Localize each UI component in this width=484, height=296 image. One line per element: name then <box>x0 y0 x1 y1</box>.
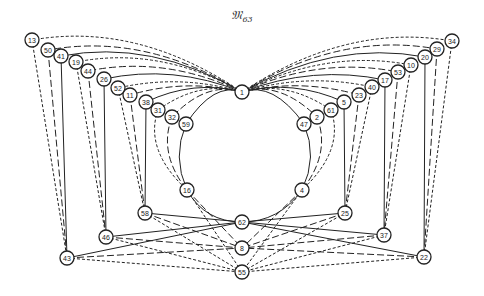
node-13: 13 <box>25 33 39 47</box>
edge-38-58 <box>145 102 146 213</box>
node-label: 38 <box>142 99 150 106</box>
node-8: 8 <box>235 241 249 255</box>
node-label: 52 <box>114 85 122 92</box>
edge-43-55 <box>67 258 242 272</box>
node-50: 50 <box>41 43 55 57</box>
node-label: 25 <box>341 210 349 217</box>
node-label: 37 <box>380 232 388 239</box>
edge-29-22 <box>424 49 437 257</box>
node-label: 10 <box>407 62 415 69</box>
node-34: 34 <box>445 34 459 48</box>
edge-22-55 <box>242 257 424 272</box>
node-59: 59 <box>179 117 193 131</box>
node-label: 62 <box>238 219 246 226</box>
node-44: 44 <box>81 64 95 78</box>
node-label: 44 <box>84 68 92 75</box>
node-label: 2 <box>315 114 319 121</box>
node-58: 58 <box>138 206 152 220</box>
edge-23-25 <box>345 95 359 213</box>
node-label: 40 <box>368 84 376 91</box>
node-label: 17 <box>381 77 389 84</box>
node-label: 32 <box>168 114 176 121</box>
node-25: 25 <box>338 206 352 220</box>
node-29: 29 <box>430 42 444 56</box>
edge-1-59 <box>186 90 242 124</box>
node-41: 41 <box>54 49 68 63</box>
node-label: 19 <box>72 59 80 66</box>
node-label: 46 <box>102 234 110 241</box>
edge-46-62 <box>106 222 242 237</box>
node-10: 10 <box>404 58 418 72</box>
edge-1-32 <box>172 89 242 117</box>
node-label: 41 <box>57 53 65 60</box>
edge-19-46 <box>76 62 106 237</box>
edge-1-31 <box>158 88 242 110</box>
edge-22-8 <box>242 248 424 257</box>
node-label: 55 <box>238 269 246 276</box>
node-label: 29 <box>433 46 441 53</box>
edge-58-62 <box>145 213 242 222</box>
node-23: 23 <box>352 88 366 102</box>
edge-10-37 <box>384 65 411 235</box>
node-label: 22 <box>420 254 428 261</box>
node-label: 34 <box>448 38 456 45</box>
node-38: 38 <box>139 95 153 109</box>
node-11: 11 <box>123 88 137 102</box>
edge-58-55 <box>145 213 242 272</box>
node-label: 20 <box>421 54 429 61</box>
node-label: 11 <box>126 92 133 99</box>
node-5: 5 <box>337 95 351 109</box>
graph-diagram: 1350411944265211383132591342920105317402… <box>0 0 484 296</box>
node-1: 1 <box>235 85 249 99</box>
edge-53-37 <box>384 72 398 235</box>
edge-1-47 <box>242 90 304 124</box>
node-61: 61 <box>324 103 338 117</box>
node-40: 40 <box>365 80 379 94</box>
node-43: 43 <box>60 251 74 265</box>
node-label: 43 <box>63 255 71 262</box>
node-19: 19 <box>69 55 83 69</box>
nodes-layer: 1350411944265211383132591342920105317402… <box>25 33 459 279</box>
node-label: 5 <box>342 99 346 106</box>
edge-26-46 <box>104 79 106 237</box>
edge-37-8 <box>242 235 384 248</box>
node-label: 50 <box>44 47 52 54</box>
node-53: 53 <box>391 65 405 79</box>
node-47: 47 <box>297 117 311 131</box>
node-26: 26 <box>97 72 111 86</box>
edge-25-62 <box>242 213 345 222</box>
node-2: 2 <box>310 110 324 124</box>
node-16: 16 <box>180 183 194 197</box>
edge-44-46 <box>88 71 106 237</box>
node-62: 62 <box>235 215 249 229</box>
node-label: 59 <box>182 121 190 128</box>
node-46: 46 <box>99 230 113 244</box>
node-37: 37 <box>377 228 391 242</box>
node-label: 1 <box>240 89 244 96</box>
node-20: 20 <box>418 50 432 64</box>
edge-17-37 <box>384 80 385 235</box>
edge-43-62 <box>67 222 242 258</box>
edge-1-61 <box>242 88 331 110</box>
node-31: 31 <box>151 103 165 117</box>
node-label: 31 <box>154 107 162 114</box>
node-label: 53 <box>394 69 402 76</box>
edge-5-25 <box>344 102 345 213</box>
node-label: 16 <box>183 187 191 194</box>
node-label: 23 <box>355 92 363 99</box>
edge-1-2 <box>242 89 317 117</box>
node-label: 4 <box>300 187 304 194</box>
node-4: 4 <box>295 183 309 197</box>
node-label: 47 <box>300 121 308 128</box>
node-label: 61 <box>327 107 335 114</box>
node-label: 58 <box>141 210 149 217</box>
node-55: 55 <box>235 265 249 279</box>
edge-34-22 <box>424 41 452 257</box>
edge-1-13 <box>32 36 242 92</box>
node-label: 13 <box>28 37 36 44</box>
node-22: 22 <box>417 250 431 264</box>
edge-20-22 <box>424 57 425 257</box>
node-label: 8 <box>240 245 244 252</box>
edge-22-62 <box>242 222 424 257</box>
node-17: 17 <box>378 73 392 87</box>
